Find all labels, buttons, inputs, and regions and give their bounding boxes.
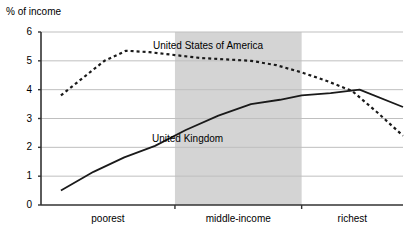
y-tick-label: 6 — [16, 27, 32, 37]
y-tick-label: 3 — [16, 114, 32, 124]
x-tick-label: middle-income — [206, 213, 271, 224]
y-tick-label: 1 — [16, 171, 32, 181]
y-tick-label: 2 — [16, 142, 32, 152]
income-distribution-line-chart: % of income 0123456 poorestmiddle-income… — [0, 0, 416, 236]
y-tick-label: 4 — [16, 85, 32, 95]
chart-plot-area — [0, 0, 416, 236]
y-tick-label: 0 — [16, 200, 32, 210]
x-tick-label: richest — [338, 213, 367, 224]
usa-label: United States of America — [153, 40, 263, 51]
x-tick-label: poorest — [91, 213, 124, 224]
uk-label: United Kingdom — [152, 133, 223, 144]
y-tick-label: 5 — [16, 56, 32, 66]
